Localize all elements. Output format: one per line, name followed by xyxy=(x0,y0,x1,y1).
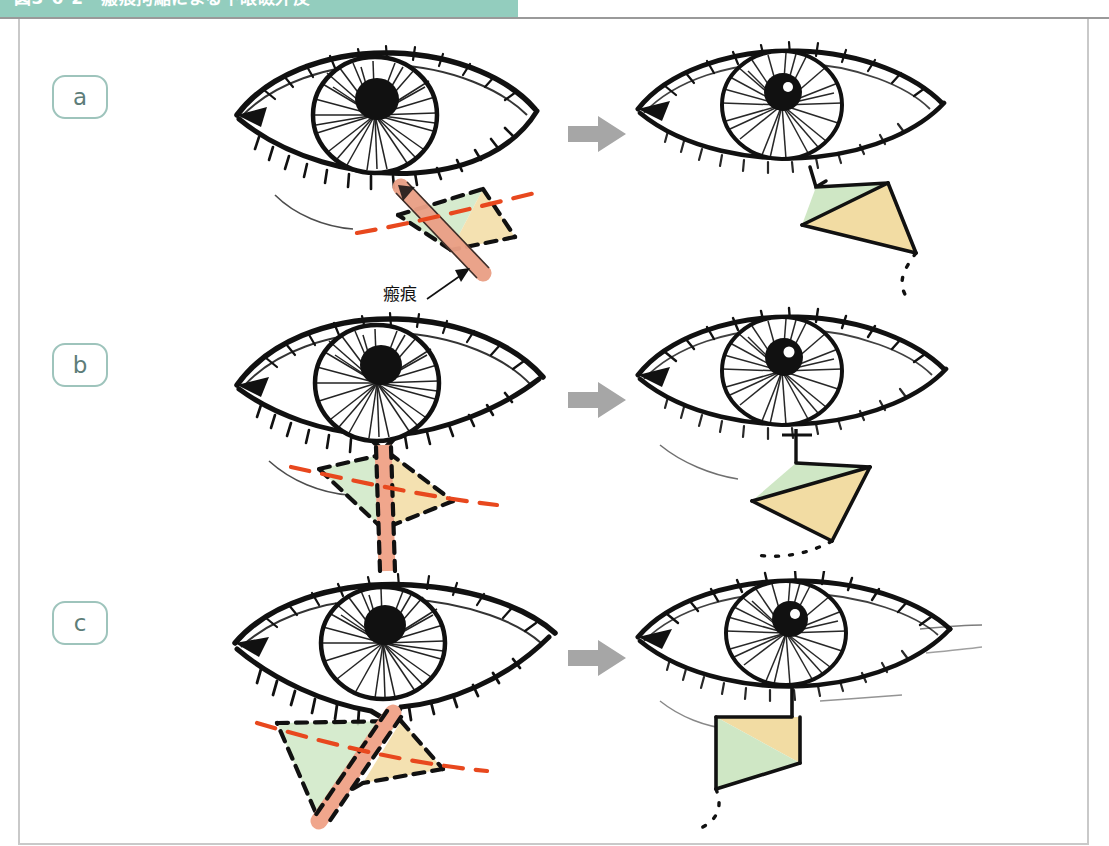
figure-panel-c: c xyxy=(20,571,1091,837)
panel-label-b-text: b xyxy=(73,352,88,378)
panel-label-c: c xyxy=(52,601,108,645)
panel-b-before-illustration xyxy=(215,305,575,573)
panel-b-after-illustration xyxy=(620,305,980,573)
figure-header-title: 図3-6-2 瘢痕拘縮による下眼瞼外反 xyxy=(14,0,310,9)
panel-c-before-illustration xyxy=(215,571,575,837)
panel-label-b: b xyxy=(52,343,108,387)
panel-a-before-illustration xyxy=(215,37,575,307)
figure-panel-a: a xyxy=(20,35,1091,307)
panel-c-after-illustration xyxy=(620,571,1000,837)
arrow-right-icon xyxy=(568,113,628,155)
scar-annotation-label: 瘢痕 xyxy=(383,280,417,305)
figure-page-frame: a xyxy=(18,19,1089,845)
figure-header-band: 図3-6-2 瘢痕拘縮による下眼瞼外反 xyxy=(0,0,518,17)
arrow-right-icon xyxy=(568,379,628,421)
arrow-right-icon xyxy=(568,637,628,679)
panel-label-a-text: a xyxy=(73,84,87,110)
panel-label-c-text: c xyxy=(74,610,87,636)
panel-a-after-illustration xyxy=(620,37,980,307)
panel-label-a: a xyxy=(52,75,108,119)
figure-panel-b: b xyxy=(20,305,1091,573)
